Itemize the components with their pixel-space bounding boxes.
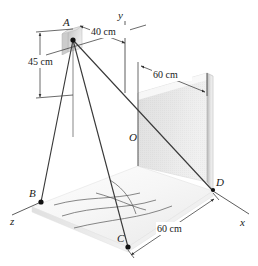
point-label-b: B [29, 187, 36, 199]
dimension-60cm-plate-label: 60 cm [153, 69, 178, 80]
node-c [125, 244, 130, 249]
vertical-plate-thickness [207, 73, 213, 190]
point-label-d: D [215, 176, 224, 188]
x-axis [213, 191, 249, 214]
node-a [70, 37, 75, 42]
dimension-45cm-ext-bottom [36, 95, 73, 98]
dimension-40cm-label: 40 cm [91, 26, 116, 37]
point-label-c: C [117, 232, 125, 244]
node-d [211, 188, 215, 192]
node-b [38, 199, 43, 204]
point-label-o: O [129, 131, 137, 143]
figure-container: 45 cm 40 cm 60 cm [0, 0, 258, 266]
dimension-60cm-ground-label: 60 cm [157, 223, 182, 234]
dimension-40cm: 40 cm [46, 25, 146, 55]
axis-label-y: y [117, 9, 123, 21]
axis-label-x: x [239, 216, 245, 228]
axis-label-z: z [9, 215, 15, 227]
dimension-45cm-label: 45 cm [28, 56, 53, 67]
point-label-a: A [62, 16, 70, 28]
engineering-diagram-svg: 45 cm 40 cm 60 cm [0, 0, 258, 266]
